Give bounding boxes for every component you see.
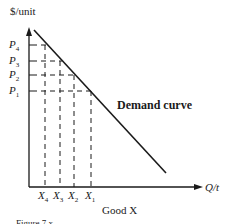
quantity-label-x3: X3 [53,190,63,204]
price-label-p2: P2 [9,69,19,83]
price-label-p4: P4 [9,39,19,53]
good-label: Good X [102,205,137,216]
x-axis-arrow-icon [194,184,203,190]
quantity-label-x1: X1 [85,190,95,204]
demand-diagram-graphic [0,0,230,224]
demand-curve-label: Demand curve [117,99,192,111]
x-axis-label: Q/t [205,182,219,193]
price-label-p1: P1 [9,85,19,99]
demand-curve-figure: $/unit P4 P3 P2 P1 X4 X3 X2 X1 Q/t Deman… [0,0,230,224]
y-axis-arrow-icon [26,27,32,36]
y-axis-label: $/unit [10,6,36,17]
quantity-label-x2: X2 [68,190,78,204]
figure-caption: Figure 7.x [16,219,53,224]
price-dashed-lines [32,45,91,91]
quantity-label-x4: X4 [38,190,48,204]
